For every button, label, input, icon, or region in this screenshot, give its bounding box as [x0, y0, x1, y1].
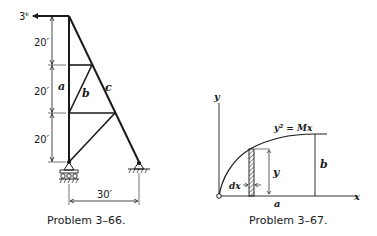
panel-height-2: 20′	[34, 86, 50, 97]
diagonal-member-lower	[69, 113, 115, 162]
span-label: 30′	[97, 189, 113, 200]
equation-label: y² = Mx	[273, 123, 313, 133]
caption-problem-3-67: Problem 3–67.	[249, 214, 327, 227]
member-label-a: a	[58, 80, 65, 93]
member-label-c: c	[105, 81, 112, 94]
load-label: 3ᵏ	[19, 11, 30, 22]
pin-support	[128, 161, 150, 173]
differential-strip	[249, 149, 254, 196]
width-label-a: a	[274, 198, 280, 209]
member-label-b: b	[82, 87, 90, 100]
panel-height-1: 20′	[34, 37, 50, 48]
panel-height-3: 20′	[34, 134, 50, 145]
y-axis-label: y	[213, 91, 221, 102]
height-label-b: b	[320, 158, 328, 171]
strip-height-label: y	[272, 166, 281, 179]
caption-problem-3-66: Problem 3–66.	[47, 214, 125, 227]
member-c	[69, 16, 139, 162]
roller-support	[59, 160, 79, 183]
origin-marker	[217, 194, 222, 199]
strip-width-label: dx	[229, 181, 241, 191]
x-axis-label: x	[353, 191, 361, 202]
truss-figure	[33, 16, 150, 205]
